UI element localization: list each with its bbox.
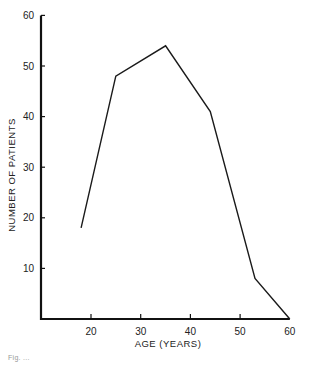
x-tick-label: 40 — [185, 326, 197, 337]
y-tick-label: 40 — [23, 111, 35, 122]
y-tick-label: 50 — [23, 61, 35, 72]
figure-caption: Fig. ... — [8, 354, 30, 361]
x-axis-title: AGE (YEARS) — [135, 338, 202, 349]
axes — [40, 15, 290, 320]
x-tick-label: 60 — [284, 326, 296, 337]
series-line — [81, 46, 290, 319]
x-tick-label: 30 — [135, 326, 147, 337]
x-tick-label: 20 — [85, 326, 97, 337]
y-tick-label: 60 — [23, 10, 35, 21]
y-tick-label: 30 — [23, 162, 35, 173]
ticks: 1020304050602030405060 — [23, 10, 296, 337]
y-tick-label: 10 — [23, 263, 35, 274]
y-tick-label: 20 — [23, 212, 35, 223]
line-chart: 1020304050602030405060 AGE (YEARS) NUMBE… — [0, 0, 309, 350]
y-axis-title: NUMBER OF PATIENTS — [6, 118, 17, 232]
x-tick-label: 50 — [235, 326, 247, 337]
data-series — [81, 46, 290, 319]
